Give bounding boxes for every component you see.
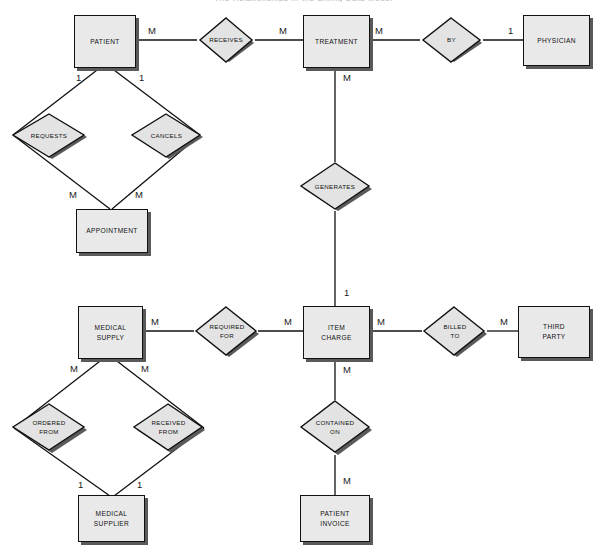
entity-item-charge[interactable]: ITEM CHARGE <box>303 306 370 359</box>
entity-label: APPOINTMENT <box>86 226 137 236</box>
cardinality-patient-receives: M <box>148 26 156 36</box>
entity-patient[interactable]: PATIENT <box>74 15 136 68</box>
entity-label: PHYSICIAN <box>537 36 576 46</box>
relationship-by[interactable]: BY <box>420 17 483 63</box>
cardinality-patient-cancels: 1 <box>139 73 144 83</box>
relationship-label: REQUESTS <box>31 132 67 141</box>
cardinality-orderedfrom-supplier: 1 <box>78 480 83 490</box>
cardinality-treatment-by: M <box>375 26 383 36</box>
entity-label: TREATMENT <box>315 37 358 47</box>
entity-patient-invoice[interactable]: PATIENT INVOICE <box>300 495 370 542</box>
cardinality-itemcharge-containedon: M <box>343 365 351 375</box>
relationship-label: BILLED TO <box>443 323 466 340</box>
cardinality-medsupply-requiredfor: M <box>151 317 159 327</box>
cardinality-billedto-thirdparty: M <box>500 317 508 327</box>
entity-label: ITEM CHARGE <box>321 323 351 342</box>
relationship-cancels[interactable]: CANCELS <box>129 112 204 160</box>
er-diagram-canvas: The Relationships in the Billing Data Mo… <box>0 0 607 559</box>
cardinality-by-physician: 1 <box>508 26 513 36</box>
entity-medical-supply[interactable]: MEDICAL SUPPLY <box>78 306 143 359</box>
cardinality-cancels-appointment: M <box>135 190 143 200</box>
entity-label: MEDICAL SUPPLY <box>95 323 127 342</box>
cardinality-receivedfrom-supplier: 1 <box>137 480 142 490</box>
relationship-label: BY <box>447 36 456 45</box>
relationship-received-from[interactable]: RECEIVED FROM <box>131 402 206 454</box>
entity-label: PATIENT <box>90 37 119 47</box>
entity-appointment[interactable]: APPOINTMENT <box>76 209 148 253</box>
relationship-label: RECEIVED FROM <box>151 419 185 436</box>
cardinality-medsupply-receivedfrom: M <box>141 364 149 374</box>
cardinality-treatment-generates: M <box>343 73 351 83</box>
relationship-generates[interactable]: GENERATES <box>297 162 373 212</box>
relationship-label: CONTAINED ON <box>316 419 355 436</box>
entity-treatment[interactable]: TREATMENT <box>303 15 370 68</box>
relationship-required-for[interactable]: REQUIRED FOR <box>194 306 260 358</box>
relationship-receives[interactable]: RECEIVES <box>197 17 255 63</box>
cardinality-requests-appointment: M <box>69 190 77 200</box>
relationship-ordered-from[interactable]: ORDERED FROM <box>10 402 88 454</box>
entity-label: THIRD PARTY <box>542 322 565 341</box>
cardinality-medsupply-orderedfrom: M <box>70 364 78 374</box>
relationship-label: CANCELS <box>151 132 182 141</box>
cardinality-receives-treatment: M <box>279 26 287 36</box>
relationship-label: ORDERED FROM <box>32 419 65 436</box>
relationship-label: RECEIVES <box>209 36 243 45</box>
cropped-header-text: The Relationships in the Billing Data Mo… <box>0 0 607 2</box>
entity-medical-supplier[interactable]: MEDICAL SUPPLIER <box>78 495 145 542</box>
entity-physician[interactable]: PHYSICIAN <box>523 15 590 66</box>
relationship-label: REQUIRED FOR <box>209 323 244 340</box>
cardinality-itemcharge-billedto: M <box>377 317 385 327</box>
cardinality-requiredfor-itemcharge: M <box>284 317 292 327</box>
cardinality-generates-itemcharge: 1 <box>344 288 349 298</box>
cardinality-patient-requests: 1 <box>76 73 81 83</box>
entity-third-party[interactable]: THIRD PARTY <box>518 306 590 358</box>
relationship-requests[interactable]: REQUESTS <box>10 112 88 160</box>
connector-lines-layer <box>0 0 607 559</box>
relationship-label: GENERATES <box>315 183 355 192</box>
relationship-billed-to[interactable]: BILLED TO <box>422 306 488 358</box>
relationship-contained-on[interactable]: CONTAINED ON <box>297 400 373 456</box>
cardinality-containedon-invoice: M <box>343 476 351 486</box>
entity-label: PATIENT INVOICE <box>320 509 350 528</box>
entity-label: MEDICAL SUPPLIER <box>94 509 129 528</box>
